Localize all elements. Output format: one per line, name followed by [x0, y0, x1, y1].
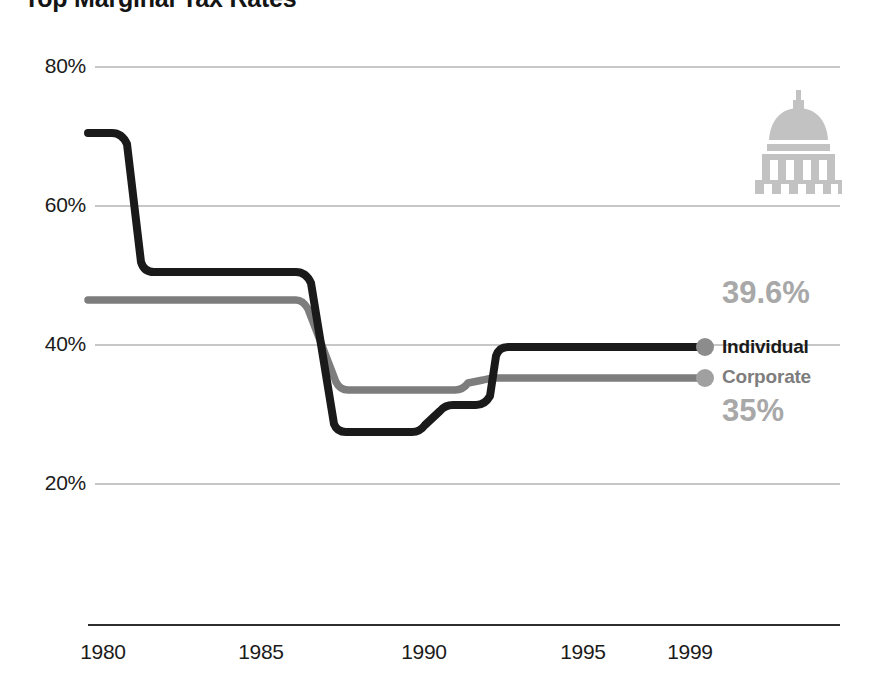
legend-value-individual: 39.6%: [722, 275, 810, 311]
capitol-building-icon: [752, 88, 848, 196]
endpoint-dot-corporate: [696, 369, 714, 387]
legend-label-individual: Individual: [722, 336, 809, 358]
x-tick-1985: 1985: [238, 640, 284, 664]
legend-label-corporate: Corporate: [722, 366, 811, 388]
x-tick-1995: 1995: [560, 640, 606, 664]
chart-container: Top Marginal Tax Rates 80% 60% 40% 20% 1…: [0, 0, 869, 692]
endpoint-dot-individual: [696, 338, 714, 356]
x-tick-1990: 1990: [401, 640, 447, 664]
x-tick-1980: 1980: [80, 640, 126, 664]
x-tick-1999: 1999: [667, 640, 713, 664]
legend-value-corporate: 35%: [722, 393, 784, 429]
